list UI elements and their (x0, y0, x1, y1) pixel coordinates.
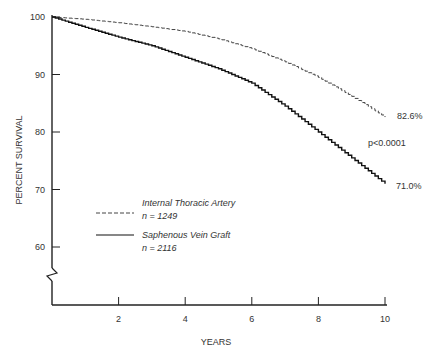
legend-ita-n: n = 1249 (142, 211, 177, 221)
y-tick-label: 90 (35, 70, 45, 80)
x-tick-label: 10 (380, 314, 390, 324)
x-axis-title: YEARS (201, 337, 232, 347)
survival-chart: 60708090100 246810 YEARS PERCENT SURVIVA… (0, 0, 437, 356)
x-tick-label: 4 (183, 314, 188, 324)
y-tick-label: 100 (30, 12, 45, 22)
legend-svg-n: n = 2116 (142, 243, 177, 253)
svg-end-label: 71.0% (396, 181, 422, 191)
p-value-annotation: p<0.0001 (368, 138, 406, 148)
y-axis-title: PERCENT SURVIVAL (14, 115, 24, 204)
x-axis: 246810 (52, 297, 390, 324)
legend: Internal Thoracic Artery n = 1249 Saphen… (96, 198, 236, 253)
legend-ita-label: Internal Thoracic Artery (142, 198, 236, 208)
y-tick-label: 80 (35, 127, 45, 137)
x-tick-label: 6 (249, 314, 254, 324)
ita-end-label: 82.6% (397, 111, 423, 121)
y-tick-label: 70 (35, 185, 45, 195)
x-tick-label: 8 (316, 314, 321, 324)
y-tick-label: 60 (35, 242, 45, 252)
series-svg-line (52, 17, 385, 184)
y-axis: 60708090100 (30, 12, 60, 305)
legend-svg-label: Saphenous Vein Graft (142, 230, 231, 240)
x-tick-label: 2 (116, 314, 121, 324)
